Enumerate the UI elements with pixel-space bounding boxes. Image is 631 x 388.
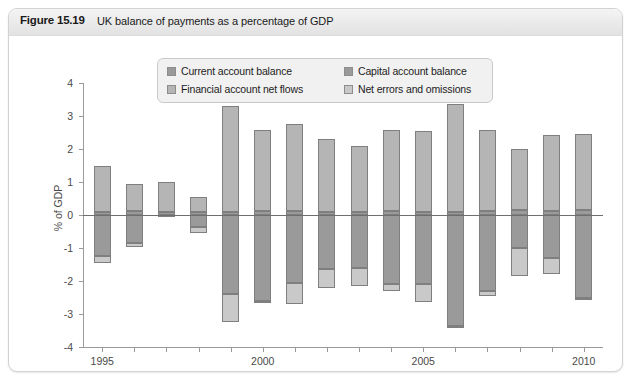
bar-segment	[126, 243, 143, 247]
bar-segment	[415, 131, 432, 212]
bar-segment	[254, 215, 271, 301]
figure-panel: Figure 15.19 UK balance of payments as a…	[8, 8, 623, 372]
bar-segment	[575, 215, 592, 298]
bar-segment	[190, 197, 207, 212]
bar-segment	[254, 301, 271, 303]
bar-segment	[511, 149, 528, 210]
legend-swatch-icon	[344, 67, 353, 76]
bar-segment	[126, 215, 143, 243]
bar-segment	[479, 215, 496, 291]
bar-segment	[543, 215, 560, 258]
bar-segment	[383, 284, 400, 291]
bar-segment	[158, 182, 175, 212]
legend-swatch-icon	[167, 67, 176, 76]
bar-segment	[126, 184, 143, 211]
legend-label: Net errors and omissions	[358, 83, 471, 95]
zero-line	[83, 215, 603, 216]
chart-plot-area: 43210-1-2-3-41995200020052010 % of GDP C…	[9, 36, 623, 372]
legend-swatch-icon	[344, 85, 353, 94]
bar-segment	[222, 294, 239, 322]
bar-segment	[190, 215, 207, 227]
bar-segment	[254, 130, 271, 211]
bar-segment	[575, 134, 592, 210]
bar-segment	[447, 215, 464, 326]
bar-segment	[575, 298, 592, 300]
bar-segment	[447, 326, 464, 328]
bar-segment	[351, 146, 368, 212]
bar-segment	[351, 215, 368, 268]
figure-title-bar: Figure 15.19 UK balance of payments as a…	[9, 9, 622, 36]
bar-segment	[479, 291, 496, 296]
bar-segment	[318, 215, 335, 269]
bar-segment	[479, 130, 496, 211]
bar-segment	[222, 106, 239, 212]
bar-segment	[318, 139, 335, 212]
bar-segment	[543, 258, 560, 275]
y-axis-label: % of GDP	[52, 185, 64, 232]
bar-segment	[94, 215, 111, 256]
bar-segment	[511, 248, 528, 276]
bar-segment	[447, 104, 464, 211]
bar-segment	[286, 283, 303, 304]
figure-caption: UK balance of payments as a percentage o…	[97, 15, 333, 27]
bar-segment	[318, 269, 335, 287]
figure-screenshot: Figure 15.19 UK balance of payments as a…	[0, 0, 631, 388]
bar-segment	[351, 268, 368, 286]
legend-item-financial-account-net-flows[interactable]: Financial account net flows	[167, 83, 303, 95]
bar-segment	[543, 135, 560, 211]
bar-segment	[415, 215, 432, 284]
bar-segment	[511, 215, 528, 248]
bar-segment	[383, 130, 400, 211]
chart-legend: Current account balance Capital account …	[157, 58, 493, 103]
legend-label: Capital account balance	[358, 65, 467, 77]
bar-segment	[190, 227, 207, 234]
legend-item-capital-account-balance[interactable]: Capital account balance	[344, 65, 467, 77]
bar-segment	[383, 215, 400, 284]
bar-segment	[286, 124, 303, 211]
bar-segment	[94, 166, 111, 212]
bar-segment	[286, 215, 303, 283]
legend-item-current-account-balance[interactable]: Current account balance	[167, 65, 292, 77]
legend-label: Financial account net flows	[181, 83, 303, 95]
bar-segment	[415, 284, 432, 302]
legend-swatch-icon	[167, 85, 176, 94]
legend-label: Current account balance	[181, 65, 292, 77]
bar-segment	[94, 256, 111, 263]
bar-segment	[222, 215, 239, 294]
figure-number: Figure 15.19	[20, 14, 85, 26]
legend-item-net-errors-and-omissions[interactable]: Net errors and omissions	[344, 83, 471, 95]
